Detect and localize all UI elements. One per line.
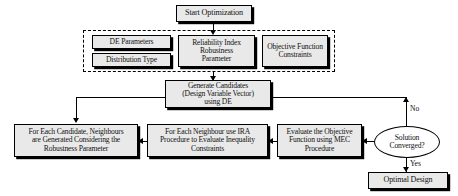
- node-objective-function-constraints[interactable]: Objective Function Constraints: [262, 35, 328, 67]
- flowchart-canvas: Start Optimization DE Parameters Distrib…: [0, 0, 458, 196]
- node-reliability-index-label: Reliability Index Robustness Parameter: [190, 39, 243, 64]
- node-mec-procedure-label: Evaluate the Objective Function using ME…: [285, 128, 355, 153]
- node-distribution-type[interactable]: Distribution Type: [92, 53, 171, 67]
- node-start-optimization[interactable]: Start Optimization: [176, 5, 252, 22]
- node-ira-procedure-label: For Each Neighbour use IRA Procedure to …: [158, 128, 257, 153]
- arrow-no-branch-up: [403, 97, 409, 102]
- arrow-decision-to-mec: [362, 138, 367, 144]
- node-optimal-design[interactable]: Optimal Design: [368, 172, 448, 189]
- node-objective-constraints-label: Objective Function Constraints: [265, 43, 325, 59]
- edge-generate-right-branch: [270, 97, 407, 98]
- node-start-optimization-label: Start Optimization: [183, 9, 245, 18]
- edge-loop-down-to-neighbours: [76, 97, 77, 120]
- node-ira-procedure[interactable]: For Each Neighbour use IRA Procedure to …: [147, 124, 268, 157]
- node-de-parameters-label: DE Parameters: [108, 38, 156, 46]
- arrow-mec-to-ira: [268, 138, 273, 144]
- node-generate-neighbours[interactable]: For Each Candidate, Neighbours are Gener…: [14, 124, 138, 157]
- node-reliability-index-robustness-parameter[interactable]: Reliability Index Robustness Parameter: [178, 35, 255, 67]
- node-distribution-type-label: Distribution Type: [104, 56, 159, 64]
- node-generate-candidates[interactable]: Generate Candidates (Design Variable Vec…: [165, 80, 271, 108]
- node-mec-procedure[interactable]: Evaluate the Objective Function using ME…: [277, 124, 362, 157]
- node-optimal-design-label: Optimal Design: [382, 176, 435, 185]
- node-solution-converged-decision[interactable]: Solution Converged?: [374, 126, 440, 158]
- node-generate-neighbours-label: For Each Candidate, Neighbours are Gener…: [26, 128, 125, 153]
- arrow-loop-to-neighbours: [73, 118, 79, 123]
- edge-generate-left-branch: [76, 97, 166, 98]
- edge-label-yes: Yes: [410, 159, 421, 168]
- node-generate-candidates-label: Generate Candidates (Design Variable Vec…: [180, 82, 256, 107]
- arrow-ira-to-neighbours: [138, 138, 143, 144]
- node-de-parameters[interactable]: DE Parameters: [92, 35, 171, 49]
- edge-label-no: No: [410, 104, 419, 113]
